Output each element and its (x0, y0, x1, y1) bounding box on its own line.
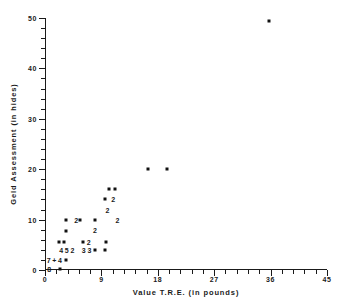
x-axis-minor-tick (147, 270, 148, 274)
data-point (94, 218, 97, 221)
x-axis-minor-tick (56, 270, 57, 274)
overplot-count-label: 8 (47, 265, 51, 272)
y-axis-tick-label: 30 (28, 115, 37, 122)
plot-area: 01020304050 0918273645 222222452337+48 (45, 18, 327, 270)
x-axis-minor-tick (192, 270, 193, 274)
y-axis-title: Geld Assessment (in hides) (9, 18, 21, 270)
y-axis-minor-tick (41, 99, 45, 100)
y-axis-tick-label: 50 (28, 15, 37, 22)
x-axis-minor-tick (68, 270, 69, 274)
overplot-count-label: 5 (65, 246, 69, 253)
data-point (114, 188, 117, 191)
x-axis-title: Value T.R.E. (in pounds) (45, 288, 327, 297)
y-axis-line (45, 18, 46, 270)
data-point (104, 249, 107, 252)
y-axis-minor-tick (41, 250, 45, 251)
y-axis-major-tick (39, 119, 45, 120)
y-axis-minor-tick (41, 28, 45, 29)
data-point (64, 258, 67, 261)
x-axis-minor-tick (225, 270, 226, 274)
overplot-count-label: 3 (82, 246, 86, 253)
overplot-count-label: 2 (93, 226, 97, 233)
x-axis-minor-tick (316, 270, 317, 274)
y-axis-tick-label: 40 (28, 65, 37, 72)
y-axis-tick-label: 20 (28, 166, 37, 173)
x-axis-minor-tick (90, 270, 91, 274)
data-point (104, 240, 107, 243)
y-axis-minor-tick (41, 89, 45, 90)
overplot-count-label: 3 (87, 246, 91, 253)
x-axis-tick-label: 18 (153, 276, 162, 283)
overplot-count-label: 4 (58, 256, 62, 263)
overplot-count-label: 2 (70, 246, 74, 253)
data-point (268, 19, 271, 22)
x-axis-tick-label: 45 (323, 276, 332, 283)
data-point (79, 218, 82, 221)
y-axis-minor-tick (41, 38, 45, 39)
overplot-count-label: 2 (87, 238, 91, 245)
x-axis-minor-tick (248, 270, 249, 274)
x-axis-tick-label: 27 (210, 276, 219, 283)
data-point (104, 198, 107, 201)
data-point (147, 168, 150, 171)
y-axis-minor-tick (41, 109, 45, 110)
overplot-count-label: 2 (74, 216, 78, 223)
scatter-plot-figure: 01020304050 0918273645 222222452337+48 V… (0, 0, 348, 305)
overplot-count-label: 2 (111, 196, 115, 203)
data-point (93, 248, 96, 251)
x-axis-tick-label: 0 (43, 276, 48, 283)
x-axis-minor-tick (203, 270, 204, 274)
y-axis-minor-tick (41, 58, 45, 59)
y-axis-major-tick (39, 68, 45, 69)
y-axis-minor-tick (41, 260, 45, 261)
data-point (81, 240, 84, 243)
x-axis-minor-tick (113, 270, 114, 274)
y-axis-minor-tick (41, 48, 45, 49)
x-axis-minor-tick (293, 270, 294, 274)
data-point (65, 230, 68, 233)
data-point (62, 240, 65, 243)
x-axis-minor-tick (180, 270, 181, 274)
y-axis-major-tick (39, 169, 45, 170)
x-axis-minor-tick (135, 270, 136, 274)
x-axis-minor-tick (169, 270, 170, 274)
y-axis-minor-tick (41, 210, 45, 211)
overplot-count-label: 4 (59, 246, 63, 253)
y-axis-major-tick (39, 220, 45, 221)
data-point (107, 188, 110, 191)
y-axis-minor-tick (41, 78, 45, 79)
x-axis-line (45, 269, 327, 270)
x-axis-tick-label: 36 (266, 276, 275, 283)
x-axis-tick-label: 9 (99, 276, 104, 283)
y-axis-minor-tick (41, 179, 45, 180)
x-axis-minor-tick (237, 270, 238, 274)
overplot-count-label: 2 (106, 206, 110, 213)
x-axis-minor-tick (304, 270, 305, 274)
x-axis-minor-tick (282, 270, 283, 274)
data-point (57, 240, 60, 243)
y-axis-minor-tick (41, 189, 45, 190)
x-axis-minor-tick (259, 270, 260, 274)
overplot-count-label: 7 (47, 256, 51, 263)
data-point (59, 267, 62, 270)
y-axis-minor-tick (41, 230, 45, 231)
y-axis-major-tick (39, 18, 45, 19)
data-point (64, 218, 67, 221)
y-axis-tick-label: 0 (33, 267, 38, 274)
y-axis-minor-tick (41, 199, 45, 200)
y-axis-tick-label: 10 (28, 216, 37, 223)
y-axis-minor-tick (41, 139, 45, 140)
data-point (166, 168, 169, 171)
y-axis-minor-tick (41, 159, 45, 160)
y-axis-minor-tick (41, 149, 45, 150)
y-axis-minor-tick (41, 129, 45, 130)
overplot-count-label: + (52, 256, 56, 263)
x-axis-minor-tick (79, 270, 80, 274)
y-axis-minor-tick (41, 240, 45, 241)
overplot-count-label: 2 (116, 216, 120, 223)
x-axis-minor-tick (124, 270, 125, 274)
